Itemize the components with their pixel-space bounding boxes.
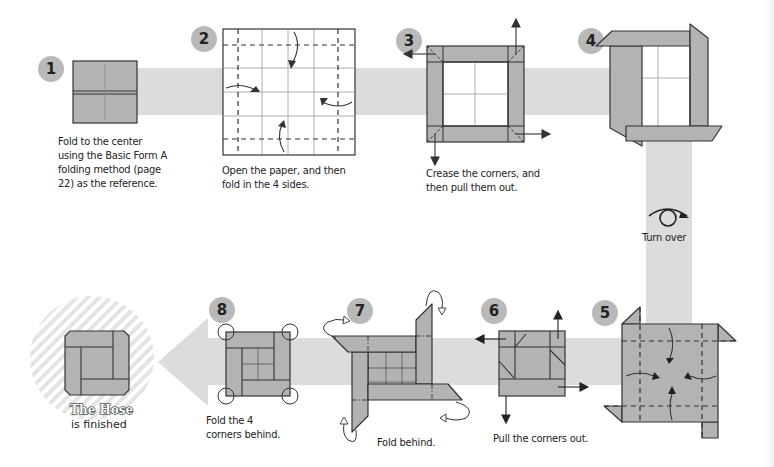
finished-title: The Hose xyxy=(70,403,133,417)
turn-over-icon xyxy=(645,204,691,230)
step-number: 8 xyxy=(217,301,227,319)
step-7-caption: Fold behind. xyxy=(377,436,435,450)
caption-line: using the Basic Form A xyxy=(58,149,167,163)
caption-line: corners behind. xyxy=(206,428,280,442)
caption-line: Open the paper, and then xyxy=(222,164,346,178)
caption-line: then pull them out. xyxy=(426,181,540,195)
step-6-caption: Pull the corners out. xyxy=(493,432,588,446)
step-6-figure xyxy=(470,315,600,425)
page-edge xyxy=(764,0,774,467)
caption-line: 22) as the reference. xyxy=(58,177,167,191)
step-1-badge: 1 xyxy=(38,56,64,82)
step-number: 1 xyxy=(46,60,56,78)
finished-subtitle: is finished xyxy=(71,418,127,431)
step-number: 2 xyxy=(199,30,209,48)
step-5-figure xyxy=(602,306,762,456)
step-number: 4 xyxy=(586,32,596,50)
caption-line: Fold behind. xyxy=(377,436,435,450)
caption-line: Fold to the center xyxy=(58,135,167,149)
step-1-figure xyxy=(72,60,138,124)
step-4-figure xyxy=(596,28,728,148)
step-1-caption: Fold to the center using the Basic Form … xyxy=(58,135,167,191)
flow-arrow-head xyxy=(158,318,208,406)
caption-line: Pull the corners out. xyxy=(493,432,588,446)
step-2-figure xyxy=(222,28,356,156)
caption-line: Fold the 4 xyxy=(206,414,280,428)
step-2-badge: 2 xyxy=(191,26,217,52)
caption-line: fold in the 4 sides. xyxy=(222,178,346,192)
caption-line: folding method (page xyxy=(58,163,167,177)
turn-over-label: Turn over xyxy=(642,231,686,245)
step-2-caption: Open the paper, and then fold in the 4 s… xyxy=(222,164,346,192)
step-8-figure xyxy=(214,320,298,404)
step-3-figure xyxy=(400,16,560,166)
step-3-caption: Crease the corners, and then pull them o… xyxy=(426,167,540,195)
step-8-caption: Fold the 4 corners behind. xyxy=(206,414,280,442)
step-7-figure xyxy=(316,284,476,444)
caption-line: Crease the corners, and xyxy=(426,167,540,181)
finished-hose-figure xyxy=(64,330,130,396)
